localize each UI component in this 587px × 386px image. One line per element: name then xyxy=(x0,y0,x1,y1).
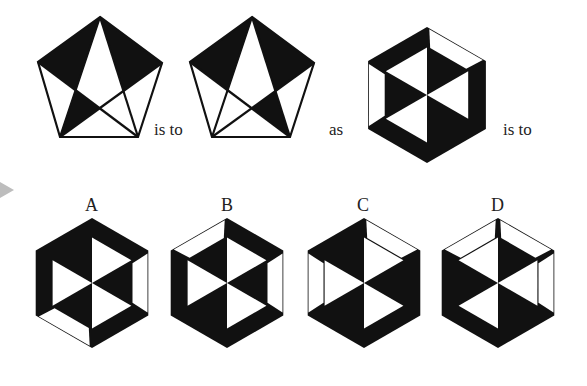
connector-as: as xyxy=(329,120,343,140)
answer-options xyxy=(36,218,555,348)
black-region-top-right xyxy=(100,17,162,91)
option-label-d[interactable]: D xyxy=(491,195,504,216)
black-region-lower-right xyxy=(252,91,290,137)
analogy-figure-canvas xyxy=(0,0,587,386)
pentagon-premise-2 xyxy=(190,17,314,137)
question-hexagon xyxy=(368,27,486,163)
connector-is-to-1: is to xyxy=(154,120,183,140)
option-label-b[interactable]: B xyxy=(221,195,233,216)
black-region-top-left xyxy=(38,17,100,90)
black-region-top-right xyxy=(252,17,314,91)
left-arrow-marker-icon xyxy=(0,182,14,198)
white-band-1 xyxy=(133,254,148,313)
pentagon-premise-1 xyxy=(38,17,162,137)
white-band-4 xyxy=(309,254,324,313)
option-a-hexagon[interactable] xyxy=(36,218,149,348)
white-band-1 xyxy=(268,254,283,313)
option-label-a[interactable]: A xyxy=(85,195,98,216)
option-c-hexagon[interactable] xyxy=(308,218,421,348)
option-d-hexagon[interactable] xyxy=(442,218,555,348)
black-region-top-left xyxy=(190,17,252,90)
connector-is-to-2: is to xyxy=(503,120,532,140)
option-b-hexagon[interactable] xyxy=(171,218,284,348)
white-band-1 xyxy=(539,254,554,313)
question-hexagon-shape xyxy=(368,27,486,163)
option-label-c[interactable]: C xyxy=(357,195,369,216)
pentagon-premises xyxy=(38,17,314,137)
white-band-4 xyxy=(369,64,385,126)
